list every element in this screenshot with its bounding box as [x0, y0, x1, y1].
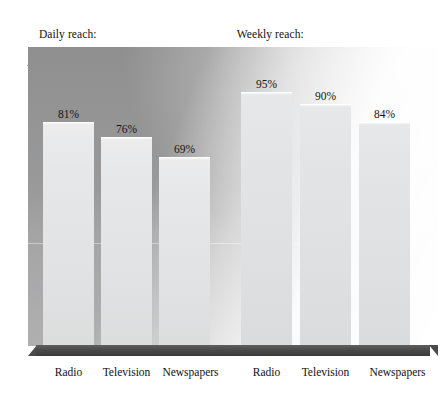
- axis-label-daily-radio: Radio: [38, 366, 99, 379]
- value-label-daily-radio: 81%: [43, 108, 94, 120]
- bar-highlight: [101, 137, 152, 140]
- axis-label-daily-television: Television: [92, 366, 161, 379]
- bar-highlight: [43, 122, 94, 125]
- axis-label-weekly-radio: Radio: [236, 366, 297, 379]
- bar-weekly-newspapers: [359, 122, 410, 346]
- bar-highlight: [300, 104, 351, 107]
- bar-highlight: [241, 92, 292, 95]
- bar-highlight: [359, 122, 410, 125]
- axis-label-weekly-television: Television: [291, 366, 360, 379]
- chart-base-platform: [28, 345, 438, 356]
- bar-weekly-television: [300, 104, 351, 346]
- value-label-daily-television: 76%: [101, 123, 152, 135]
- bar-chart-figure: Daily reach: Adults 18 + Weekly reach: A…: [0, 0, 445, 398]
- bar-daily-television: [101, 137, 152, 346]
- value-label-daily-newspapers: 69%: [159, 143, 210, 155]
- base-bevel-right: [429, 345, 438, 356]
- value-label-weekly-radio: 95%: [241, 78, 292, 90]
- bar-daily-radio: [43, 122, 94, 346]
- value-label-weekly-television: 90%: [300, 90, 351, 102]
- axis-label-weekly-newspapers: Newspapers: [357, 366, 438, 379]
- bar-highlight: [159, 157, 210, 160]
- chart-title-weekly-reach-line1: Weekly reach:: [237, 28, 304, 40]
- bar-daily-newspapers: [159, 157, 210, 346]
- base-slab: [36, 345, 430, 356]
- bar-weekly-radio: [241, 92, 292, 346]
- plot-area: [28, 47, 438, 346]
- chart-title-daily-reach-line1: Daily reach:: [39, 28, 97, 40]
- axis-label-daily-newspapers: Newspapers: [152, 366, 229, 379]
- value-label-weekly-newspapers: 84%: [359, 108, 410, 120]
